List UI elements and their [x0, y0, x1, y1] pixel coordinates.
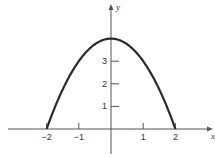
parabola-chart: −2−112 123 x y — [0, 0, 215, 157]
x-tick-label: 2 — [173, 132, 178, 142]
y-axis — [109, 4, 114, 154]
x-ticks: −2−112 — [41, 123, 177, 142]
x-tick-label: −2 — [41, 132, 51, 142]
y-tick-label: 2 — [102, 79, 107, 89]
y-tick-label: 3 — [102, 56, 107, 66]
y-axis-label: y — [115, 2, 120, 12]
y-tick-label: 1 — [102, 101, 107, 111]
x-tick-label: 1 — [141, 132, 146, 142]
y-axis-arrow-icon — [109, 4, 114, 10]
y-ticks: 123 — [102, 56, 119, 111]
x-axis-label: x — [210, 131, 215, 141]
x-tick-label: −1 — [74, 132, 84, 142]
